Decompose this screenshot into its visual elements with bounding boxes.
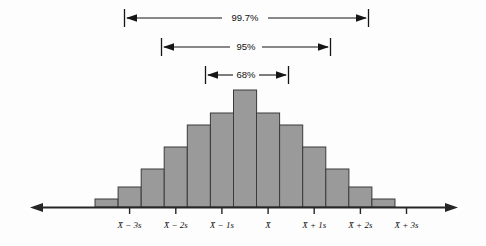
axis-label-plus-2s: X̄ + 2s	[347, 220, 373, 230]
bracket-95-percent: 95%	[162, 38, 331, 56]
table-row	[141, 169, 164, 207]
chart-canvas: X̄ − 3s X̄ − 2s X̄ − 1s X̄ X̄ + 1s X̄ + …	[0, 0, 486, 246]
bracket-99-7-percent: 99.7%	[125, 9, 369, 27]
bracket-arrow-right-icon	[356, 14, 367, 22]
bracket-arrow-left-icon	[207, 71, 218, 79]
table-row	[95, 199, 118, 207]
table-row	[326, 169, 349, 207]
table-row	[303, 147, 326, 207]
bracket-label-99-7: 99.7%	[232, 12, 259, 23]
axis-label-plus-1s: X̄ + 1s	[301, 220, 327, 230]
axis-label-plus-3s: X̄ + 3s	[393, 220, 419, 230]
bracket-arrow-right-icon	[318, 43, 329, 51]
axis-label-mean: X̄	[264, 220, 271, 230]
normal-distribution-figure: X̄ − 3s X̄ − 2s X̄ − 1s X̄ X̄ + 1s X̄ + …	[0, 0, 486, 246]
table-row	[257, 113, 280, 207]
bracket-arrow-right-icon	[276, 71, 287, 79]
axis-label-minus-2s: X̄ − 2s	[163, 220, 189, 230]
bracket-arrow-left-icon	[126, 14, 137, 22]
table-row	[187, 125, 210, 207]
table-row	[372, 199, 395, 207]
table-row	[349, 187, 372, 207]
bracket-label-95: 95%	[236, 41, 256, 52]
table-row	[210, 113, 233, 207]
axis-tick-labels: X̄ − 3s X̄ − 2s X̄ − 1s X̄ X̄ + 1s X̄ + …	[117, 220, 419, 230]
histogram-bars	[95, 90, 395, 207]
table-row	[280, 125, 303, 207]
axis-arrow-right-icon	[445, 203, 458, 212]
bracket-68-percent: 68%	[206, 66, 289, 84]
table-row	[118, 187, 141, 207]
axis-label-minus-3s: X̄ − 3s	[117, 220, 143, 230]
bracket-arrow-left-icon	[163, 43, 174, 51]
bracket-label-68: 68%	[236, 69, 256, 80]
table-row	[234, 90, 257, 207]
axis-label-minus-1s: X̄ − 1s	[209, 220, 235, 230]
axis-arrow-left-icon	[30, 203, 43, 212]
table-row	[164, 147, 187, 207]
